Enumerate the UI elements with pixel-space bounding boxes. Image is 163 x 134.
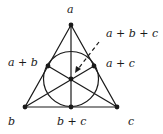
point-a: [69, 23, 74, 28]
point-b: [23, 105, 28, 110]
label-a-plus-b: a + b: [8, 57, 38, 68]
point-a-plus-b-plus-c: [69, 77, 74, 82]
label-b: b: [8, 116, 15, 127]
point-b-plus-c: [69, 105, 74, 110]
label-a-plus-c: a + c: [106, 58, 135, 69]
label-a-plus-b-plus-c: a + b + c: [106, 28, 158, 39]
point-a-plus-b: [46, 64, 51, 69]
label-c: c: [128, 116, 134, 127]
point-c: [115, 105, 120, 110]
label-b-plus-c: b + c: [57, 116, 86, 127]
label-a: a: [67, 4, 74, 15]
point-a-plus-c: [92, 64, 97, 69]
